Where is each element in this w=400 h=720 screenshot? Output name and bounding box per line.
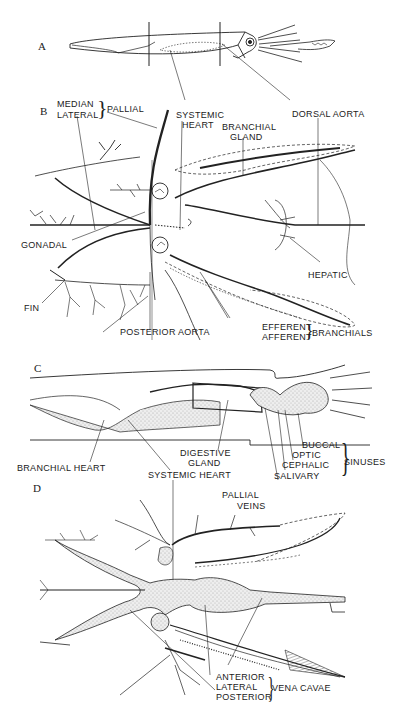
label-hepatic: HEPATIC [308, 270, 348, 280]
label-lateral-d: LATERAL [216, 682, 257, 692]
label-systemic-heart-b-1: SYSTEMIC [176, 110, 224, 120]
label-branchials: BRANCHIALS [312, 328, 373, 338]
label-lateral: LATERAL [57, 110, 98, 120]
label-branchial-gland-1: BRANCHIAL [222, 122, 276, 132]
label-optic: OPTIC [292, 450, 321, 460]
label-fin: FIN [24, 303, 39, 313]
label-digestive-gland-1: DIGESTIVE [180, 448, 231, 458]
label-anterior: ANTERIOR [216, 672, 265, 682]
panel-label-d: D [33, 482, 41, 494]
label-median: MEDIAN [57, 99, 94, 109]
label-buccal: BUCCAL [302, 440, 340, 450]
label-pallial: PALLIAL [107, 104, 144, 114]
panel-label-a: A [38, 40, 46, 52]
label-pallial-veins-2: VEINS [237, 501, 266, 511]
label-gonadal: GONADAL [21, 240, 67, 250]
brace-pallial: } [97, 97, 108, 119]
label-vena-cavae: VENA CAVAE [272, 683, 331, 693]
label-salivary: SALIVARY [274, 471, 320, 481]
label-branchial-gland-2: GLAND [230, 132, 263, 142]
panel-b-arteries [30, 110, 365, 340]
label-posterior-aorta: POSTERIOR AORTA [120, 327, 210, 337]
label-digestive-gland-2: GLAND [188, 458, 221, 468]
label-systemic-heart-c: SYSTEMIC HEART [148, 470, 231, 480]
label-dorsal-aorta: DORSAL AORTA [292, 109, 364, 119]
label-pallial-veins-1: PALLIAL [222, 490, 259, 500]
panel-a-squid-outline [70, 22, 335, 100]
panel-d-veins [40, 480, 345, 695]
panel-label-c: C [34, 362, 41, 374]
label-branchial-heart: BRANCHIAL HEART [17, 463, 106, 473]
label-cephalic: CEPHALIC [282, 460, 329, 470]
label-posterior: POSTERIOR [216, 692, 272, 702]
label-systemic-heart-b-2: HEART [182, 120, 214, 130]
panel-label-b: B [40, 105, 47, 117]
label-sinuses: SINUSES [344, 457, 386, 467]
